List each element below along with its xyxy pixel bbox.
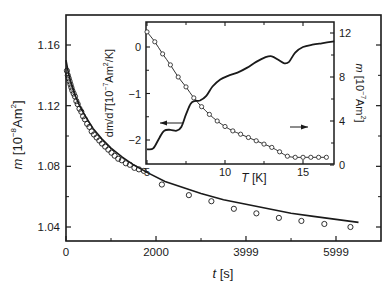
inset-left-tick-label: −1 bbox=[128, 88, 141, 100]
x-tick-label: 3999 bbox=[233, 246, 259, 258]
x-tick-label: 2000 bbox=[143, 246, 169, 258]
inset-left-tick-label: 0 bbox=[135, 41, 141, 53]
moment-data-point bbox=[207, 112, 211, 116]
data-point bbox=[322, 221, 327, 226]
moment-data-point bbox=[223, 124, 227, 128]
moment-data-point bbox=[324, 155, 328, 159]
inset-background bbox=[146, 22, 334, 164]
inset-right-tick-label: 8 bbox=[339, 71, 345, 83]
data-point bbox=[103, 144, 108, 149]
inset-left-y-axis-label: dm/dT[10−7Am2/K] bbox=[102, 49, 115, 137]
moment-data-point bbox=[262, 142, 266, 146]
moment-data-point bbox=[309, 155, 313, 159]
moment-data-point bbox=[192, 96, 196, 100]
x-tick-label: 0 bbox=[63, 246, 69, 258]
moment-data-point bbox=[161, 52, 165, 56]
inset-right-tick-label: 12 bbox=[339, 27, 351, 39]
moment-data-point bbox=[285, 154, 289, 158]
data-point bbox=[276, 215, 281, 220]
inset-x-axis-label: T [K] bbox=[241, 171, 266, 185]
data-point bbox=[106, 147, 111, 152]
moment-data-point bbox=[176, 75, 180, 79]
main-y-axis-label: m [10−8Am2] bbox=[9, 100, 25, 169]
moment-data-point bbox=[239, 132, 243, 136]
y-tick-label: 1.16 bbox=[38, 39, 60, 51]
figure: 0200039995999 1.041.081.121.16 t [s] m [… bbox=[0, 0, 392, 290]
y-tick-label: 1.08 bbox=[38, 160, 60, 172]
data-point bbox=[109, 150, 114, 155]
moment-data-point bbox=[184, 85, 188, 89]
y-tick-label: 1.04 bbox=[38, 221, 61, 233]
data-point bbox=[348, 224, 353, 229]
data-point bbox=[209, 199, 214, 204]
moment-data-point bbox=[317, 155, 321, 159]
inset-left-tick-label: −2 bbox=[128, 134, 141, 146]
x-tick-label: 5999 bbox=[323, 246, 349, 258]
moment-data-point bbox=[301, 155, 305, 159]
moment-data-point bbox=[153, 40, 157, 44]
inset-x-tick-label: 15 bbox=[297, 166, 309, 178]
moment-data-point bbox=[278, 150, 282, 154]
moment-data-point bbox=[254, 139, 258, 143]
y-tick-label: 1.12 bbox=[38, 100, 60, 112]
moment-data-point bbox=[215, 119, 219, 123]
moment-data-point bbox=[270, 145, 274, 149]
moment-data-point bbox=[200, 105, 204, 109]
data-point bbox=[231, 206, 236, 211]
moment-data-point bbox=[293, 155, 297, 159]
moment-data-point bbox=[231, 129, 235, 133]
data-point bbox=[254, 211, 259, 216]
inset-x-tick-label: 10 bbox=[219, 166, 231, 178]
data-point bbox=[159, 182, 164, 187]
inset-x-tick-label: 5 bbox=[144, 166, 150, 178]
moment-data-point bbox=[168, 63, 172, 67]
inset-right-y-axis-label: m [10−7Am2] bbox=[354, 64, 367, 123]
moment-data-point bbox=[246, 135, 250, 139]
main-x-axis-label: t [s] bbox=[213, 266, 234, 281]
data-point bbox=[186, 193, 191, 198]
inset-right-tick-label: 4 bbox=[339, 115, 345, 127]
inset-right-tick-label: 0 bbox=[339, 159, 345, 171]
data-point bbox=[299, 218, 304, 223]
main-x-axis: 0200039995999 bbox=[63, 236, 349, 258]
moment-data-point bbox=[145, 30, 149, 34]
